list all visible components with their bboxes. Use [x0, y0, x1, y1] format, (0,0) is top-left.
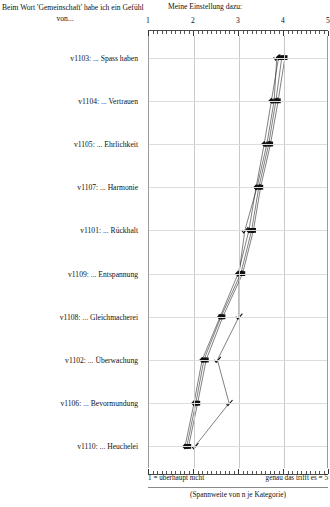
- axis-tick: [306, 31, 307, 34]
- axis-tick: [328, 469, 329, 474]
- category-label: v1101: ... Rückhalt: [80, 226, 138, 235]
- category-label: v1102: ... Überwachung: [65, 356, 138, 365]
- axis-tick: [207, 31, 208, 34]
- x-tick-4: 4: [281, 16, 285, 25]
- axis-tick: [319, 31, 320, 34]
- axis-tick: [310, 31, 311, 34]
- category-label: v1107: ... Harmonie: [77, 183, 138, 192]
- axis-tick: [211, 31, 212, 34]
- axis-tick: [243, 31, 244, 34]
- axis-tick: [274, 31, 275, 34]
- axis-tick: [157, 31, 158, 34]
- footer-divider: [148, 487, 328, 488]
- axis-tick: [324, 31, 325, 34]
- chart-title-line1: Beim Wort 'Gemeinschaft' habe ich ein Ge…: [2, 2, 142, 13]
- axis-tick: [288, 31, 289, 34]
- x-tick-3: 3: [236, 16, 240, 25]
- category-label: v1105: ... Ehrlichkeit: [74, 140, 138, 149]
- axis-tick: [261, 31, 262, 34]
- axis-tick: [279, 31, 280, 34]
- axis-tick: [175, 31, 176, 34]
- x-tick-1: 1: [146, 16, 150, 25]
- axis-tick: [184, 31, 185, 34]
- axis-tick: [189, 31, 190, 34]
- axis-tick: [265, 31, 266, 34]
- axis-tick: [301, 31, 302, 34]
- axis-tick: [220, 31, 221, 34]
- axis-tick: [229, 31, 230, 34]
- axis-tick: [252, 31, 253, 34]
- axis-tick: [198, 31, 199, 34]
- category-label: v1103: ... Spass haben: [70, 53, 138, 62]
- axis-tick: [216, 31, 217, 34]
- axis-tick: [270, 31, 271, 34]
- footer-note: (Spannweite von n je Kategorie): [148, 490, 328, 499]
- axis-tick: [256, 31, 257, 34]
- category-label: v1108: ... Gleichmacherei: [60, 312, 138, 321]
- category-label: v1109: ... Entspannung: [68, 269, 138, 278]
- axis-tick: [234, 31, 235, 34]
- axis-tick: [171, 31, 172, 34]
- scale-anchor-low: 1 = überhaupt nicht: [148, 474, 204, 482]
- x-tick-5: 5: [326, 16, 330, 25]
- scale-anchor-high: genau das trifft es = 5: [266, 474, 328, 482]
- axis-tick: [202, 31, 203, 34]
- axis-tick: [315, 31, 316, 34]
- category-labels: v1103: ... Spass habenv1104: ... Vertrau…: [0, 36, 330, 468]
- category-label: v1110: ... Heuchelei: [77, 442, 138, 451]
- category-label: v1104: ... Vertrauen: [78, 96, 138, 105]
- axis-tick: [180, 31, 181, 34]
- axis-tick: [292, 31, 293, 34]
- x-tick-2: 2: [191, 16, 195, 25]
- axis-tick: [297, 31, 298, 34]
- chart-canvas: Beim Wort 'Gemeinschaft' habe ich ein Ge…: [0, 0, 330, 507]
- axis-tick: [247, 31, 248, 34]
- axis-tick: [225, 31, 226, 34]
- scale-anchors: 1 = überhaupt nicht genau das trifft es …: [148, 474, 328, 486]
- category-label: v1106: ... Bevormundung: [60, 399, 138, 408]
- x-axis-tick-labels: 12345: [0, 16, 330, 28]
- chart-subtitle: Meine Einstellung dazu:: [168, 2, 242, 11]
- axis-tick: [166, 31, 167, 34]
- axis-tick: [153, 31, 154, 34]
- axis-tick: [162, 31, 163, 34]
